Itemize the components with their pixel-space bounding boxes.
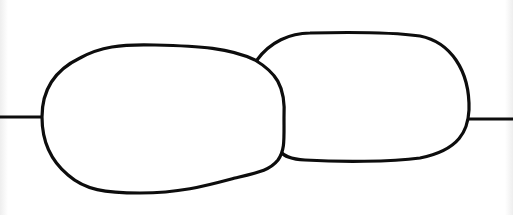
diagram-canvas [0, 0, 513, 215]
diagram-svg [0, 0, 513, 215]
left-blob [42, 45, 284, 193]
right-blob [257, 32, 469, 161]
